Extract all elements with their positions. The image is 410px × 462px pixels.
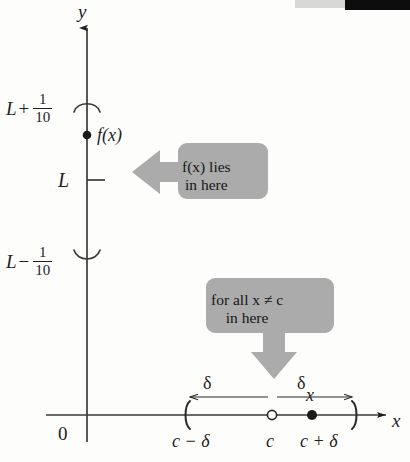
y-label-lower-base: L <box>6 252 17 271</box>
y-label-limit: L <box>58 170 69 190</box>
y-label-lower-bound: L − 1 10 <box>6 245 52 279</box>
y-label-lower-denominator: 10 <box>33 262 52 278</box>
x-axis-label: x <box>392 411 400 430</box>
callout-all-x-line2: in here <box>211 309 283 327</box>
callout-all-x-text: for all x ≠ c in here <box>211 291 283 328</box>
callout-fx-line2: in here <box>182 176 231 194</box>
y-label-upper-fraction: 1 10 <box>33 92 52 126</box>
x-tick-label-c: c <box>266 432 274 450</box>
y-label-upper-operator: + <box>19 99 30 118</box>
origin-label: 0 <box>58 424 68 443</box>
x-point-marker <box>307 410 317 420</box>
callout-fx-line1: f(x) lies <box>182 158 231 176</box>
callout-all-x-line1: for all x ≠ c <box>211 291 283 309</box>
y-label-upper-denominator: 10 <box>33 109 52 125</box>
y-label-upper-numerator: 1 <box>37 92 49 108</box>
c-point-open-circle <box>267 410 276 419</box>
callout-fx-text: f(x) lies in here <box>182 158 231 195</box>
y-label-upper-bound: L + 1 10 <box>6 92 52 126</box>
fx-point-marker <box>83 131 92 140</box>
y-label-upper-base: L <box>6 99 17 118</box>
limit-definition-figure: y x 0 L + 1 10 L L − 1 10 f(x) x δ δ c −… <box>0 0 410 462</box>
x-tick-label-c-minus-delta: c − δ <box>172 432 210 450</box>
delta-left-label: δ <box>203 374 211 392</box>
x-point-label: x <box>306 386 314 404</box>
y-axis-label: y <box>78 2 86 21</box>
y-label-lower-fraction: 1 10 <box>33 245 52 279</box>
delta-right-label: δ <box>297 374 305 392</box>
y-label-lower-operator: − <box>19 252 30 271</box>
y-label-lower-numerator: 1 <box>37 245 49 261</box>
x-tick-label-c-plus-delta: c + δ <box>300 432 338 450</box>
fx-point-label: f(x) <box>97 126 122 144</box>
